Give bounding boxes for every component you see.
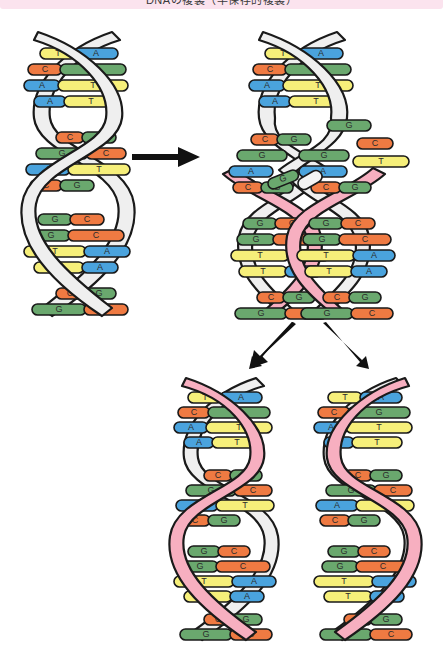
svg-text:C: C (103, 148, 110, 158)
svg-text:G: G (73, 180, 80, 190)
svg-text:C: C (371, 546, 378, 556)
svg-text:G: G (345, 120, 352, 130)
svg-text:C: C (355, 218, 362, 228)
svg-text:A: A (104, 246, 110, 256)
svg-text:C: C (67, 132, 74, 142)
base-pair: GC (301, 308, 393, 319)
svg-text:C: C (84, 214, 91, 224)
svg-text:G: G (340, 546, 347, 556)
base-pair: GC (320, 629, 412, 640)
svg-text:T: T (234, 437, 240, 447)
svg-text:C: C (215, 470, 222, 480)
svg-text:T: T (326, 266, 332, 276)
svg-text:T: T (313, 96, 319, 106)
svg-text:C: C (369, 308, 376, 318)
base-pair: GC (322, 561, 410, 572)
svg-text:C: C (388, 629, 395, 639)
svg-text:G: G (252, 234, 259, 244)
svg-text:G: G (361, 292, 368, 302)
arrow-down-right-icon (323, 322, 369, 369)
svg-text:T: T (376, 422, 382, 432)
svg-text:C: C (245, 182, 252, 192)
svg-text:C: C (262, 134, 269, 144)
base-pair: CG (178, 407, 270, 418)
svg-text:G: G (351, 182, 358, 192)
svg-text:T: T (342, 392, 348, 402)
svg-text:A: A (188, 422, 194, 432)
svg-text:G: G (360, 515, 367, 525)
svg-text:C: C (268, 292, 275, 302)
svg-text:C: C (240, 561, 247, 571)
base-pair: CG (323, 292, 381, 303)
svg-text:C: C (191, 407, 198, 417)
svg-text:A: A (238, 392, 244, 402)
svg-text:A: A (366, 266, 372, 276)
base-pair: GC (180, 629, 272, 640)
svg-text:T: T (345, 591, 351, 601)
base-pair: AT (314, 422, 412, 433)
svg-text:A: A (371, 250, 377, 260)
svg-text:G: G (256, 218, 263, 228)
svg-text:T: T (378, 156, 384, 166)
svg-text:G: G (202, 629, 209, 639)
svg-text:G: G (290, 134, 297, 144)
svg-text:T: T (323, 250, 329, 260)
panel-replication-fork: TA CG AT AT GC GC TA TA CG GC GC GC TA T… (215, 26, 425, 316)
svg-text:C: C (93, 230, 100, 240)
svg-text:G: G (47, 230, 54, 240)
base-pair: GC (309, 218, 375, 229)
svg-text:G: G (196, 561, 203, 571)
svg-text:T: T (257, 250, 263, 260)
svg-text:G: G (258, 150, 265, 160)
base-pair: T (353, 156, 409, 167)
base-pair: CG (311, 182, 371, 193)
svg-text:C: C (42, 64, 49, 74)
base-pair: GC (32, 304, 128, 315)
svg-text:T: T (341, 576, 347, 586)
base-pair: CG (257, 292, 315, 303)
svg-text:A: A (39, 80, 45, 90)
base-pair: GC (182, 561, 270, 572)
base-pair: CG (251, 134, 311, 145)
svg-text:C: C (380, 561, 387, 571)
svg-text:C: C (362, 234, 369, 244)
svg-text:A: A (318, 48, 324, 58)
svg-text:C: C (331, 407, 338, 417)
svg-text:C: C (334, 292, 341, 302)
svg-text:G: G (382, 470, 389, 480)
svg-text:G: G (55, 304, 62, 314)
svg-text:T: T (242, 500, 248, 510)
base-pair: GC (188, 546, 250, 557)
svg-text:A: A (244, 591, 250, 601)
svg-text:C: C (372, 138, 379, 148)
svg-text:A: A (251, 576, 257, 586)
svg-text:G: G (323, 308, 330, 318)
base-pair: GC (328, 546, 390, 557)
svg-text:G: G (295, 292, 302, 302)
base-pair: GC (32, 230, 124, 241)
svg-text:A: A (272, 96, 278, 106)
base-pair: C (357, 138, 393, 149)
svg-text:A: A (196, 437, 202, 447)
svg-text:G: G (200, 546, 207, 556)
svg-text:G: G (51, 214, 58, 224)
svg-text:C: C (332, 515, 339, 525)
svg-text:A: A (264, 80, 270, 90)
base-pair: G (327, 120, 371, 131)
svg-text:G: G (220, 515, 227, 525)
svg-text:G: G (375, 407, 382, 417)
panel-daughter-helix-right: TA CG AT AT CG GC AT CG GC GC TA TA CG G… (298, 372, 433, 640)
svg-text:T: T (374, 437, 380, 447)
svg-text:C: C (250, 485, 257, 495)
arrow-left (248, 322, 300, 370)
svg-text:T: T (88, 96, 94, 106)
svg-text:G: G (318, 234, 325, 244)
arrow-right-branch (318, 322, 370, 370)
panel-parent-helix: TA CG AT AT CG GC AT CG GC GC TA TA CG G… (8, 26, 148, 316)
svg-text:T: T (96, 164, 102, 174)
svg-text:A: A (97, 262, 103, 272)
svg-text:C: C (323, 182, 330, 192)
svg-text:G: G (322, 218, 329, 228)
svg-text:C: C (231, 546, 238, 556)
base-pair: CG (253, 64, 351, 75)
